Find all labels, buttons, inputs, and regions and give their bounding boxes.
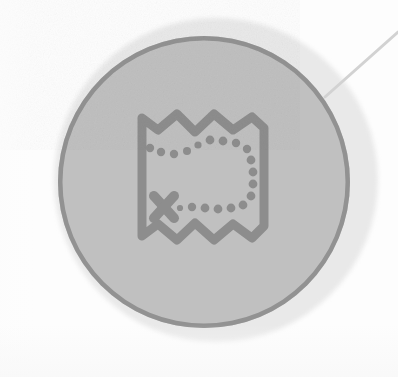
scene-description: Circular gray badge containing a folded … (0, 16, 1, 17)
leader-line-stroke (325, 32, 398, 97)
map-icon[interactable] (132, 104, 274, 252)
callout-leader-line (300, 10, 398, 120)
map-outline (142, 114, 264, 240)
x-marks-the-spot-icon (154, 196, 174, 218)
scene-title: Map Badge (0, 21, 1, 22)
screenshot-canvas: Map Badge Circular gray badge containing… (0, 0, 398, 377)
